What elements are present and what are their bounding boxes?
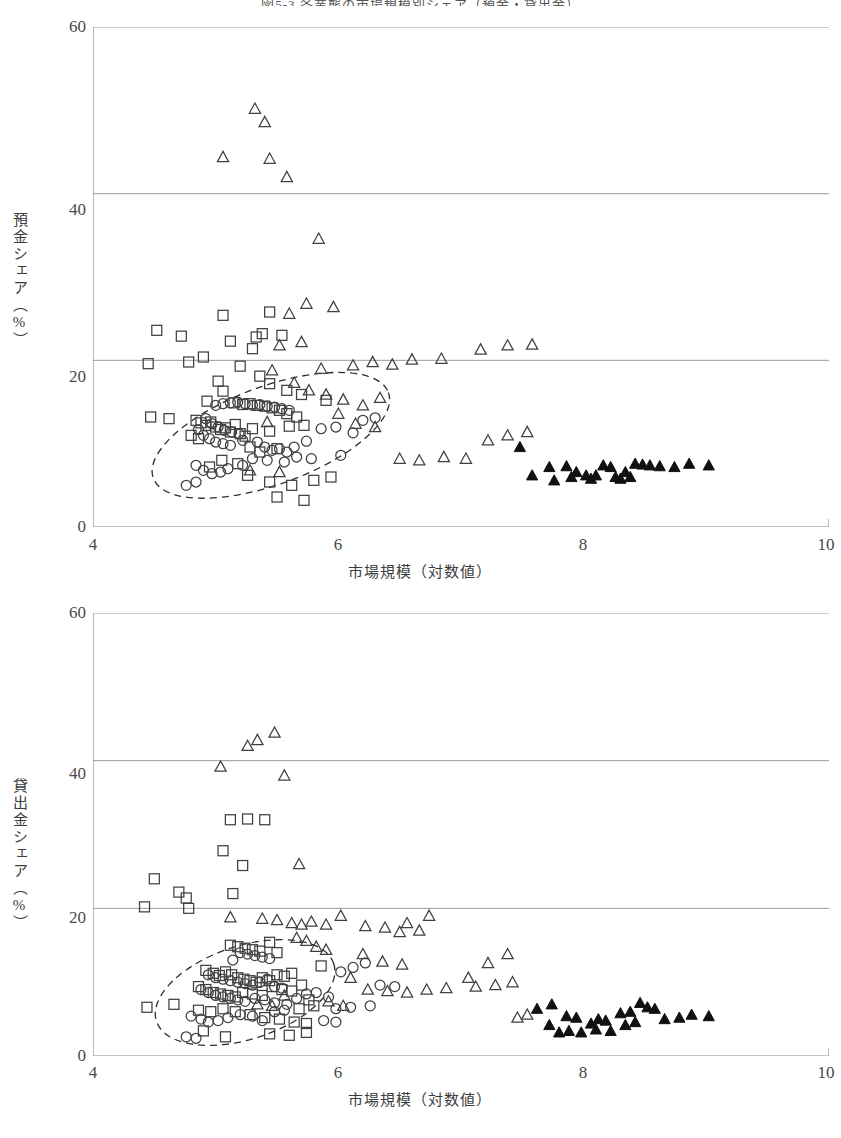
x-tick-10-bottom: 10 <box>811 1064 841 1081</box>
data-point <box>463 972 474 982</box>
data-point <box>401 987 412 997</box>
data-point <box>674 1012 685 1022</box>
data-point <box>205 462 215 472</box>
data-point <box>257 329 267 339</box>
data-point <box>181 893 191 903</box>
data-point <box>252 734 263 744</box>
series-filled-triangle <box>514 441 714 485</box>
data-point <box>228 889 238 899</box>
data-point <box>390 982 400 992</box>
data-point <box>206 1007 216 1017</box>
data-point <box>328 301 339 311</box>
data-point <box>265 937 275 947</box>
data-point <box>311 988 321 998</box>
data-point <box>266 365 277 375</box>
data-point <box>360 920 371 930</box>
data-point <box>279 457 289 467</box>
data-point <box>257 952 267 962</box>
data-point <box>421 984 432 994</box>
data-point <box>514 441 525 451</box>
y-tick-60-top: 60 <box>52 18 86 35</box>
data-point <box>333 408 344 418</box>
data-point <box>360 958 370 968</box>
data-point <box>286 918 297 928</box>
data-point <box>502 430 513 440</box>
data-point <box>338 394 349 404</box>
data-point <box>247 424 257 434</box>
data-point <box>313 233 324 243</box>
data-point <box>654 461 665 471</box>
data-point <box>605 1025 616 1035</box>
data-point <box>320 919 331 929</box>
data-point <box>247 344 257 354</box>
series-open-triangle <box>217 103 537 477</box>
data-point <box>205 434 215 444</box>
data-point <box>331 422 341 432</box>
data-point <box>277 330 287 340</box>
data-point <box>296 336 307 346</box>
data-point <box>289 442 299 452</box>
data-point <box>272 492 282 502</box>
y-axis-label-deposit: 預金シェア（%） <box>2 170 26 390</box>
data-point <box>549 475 560 485</box>
data-point <box>669 461 680 471</box>
data-point <box>265 426 275 436</box>
data-point <box>146 412 156 422</box>
data-point <box>184 357 194 367</box>
y-tick-20-top: 20 <box>52 368 86 385</box>
data-point <box>287 480 297 490</box>
data-point <box>191 477 201 487</box>
data-point <box>255 371 265 381</box>
data-point <box>264 153 275 163</box>
data-point <box>242 740 253 750</box>
data-point <box>235 361 245 371</box>
data-point <box>414 925 425 935</box>
data-point <box>149 874 159 884</box>
data-point <box>531 1003 542 1013</box>
data-point <box>406 354 417 364</box>
data-point <box>684 458 695 468</box>
data-point <box>527 470 538 480</box>
data-point <box>301 935 312 945</box>
y-axis-label-loan: 貸出金シェア（%） <box>2 725 26 985</box>
data-point <box>331 1004 341 1014</box>
data-point <box>561 1011 572 1021</box>
data-point <box>336 967 346 977</box>
data-point <box>436 353 447 363</box>
data-point <box>174 887 184 897</box>
data-point <box>316 961 326 971</box>
data-point <box>482 435 493 445</box>
data-point <box>394 453 405 463</box>
data-point <box>331 1017 341 1027</box>
data-point <box>176 331 186 341</box>
data-point <box>228 955 238 965</box>
scatter-svg-loan <box>93 613 829 1056</box>
data-point <box>284 421 294 431</box>
data-point <box>186 1011 196 1021</box>
plot-area-deposit <box>93 27 829 527</box>
data-point <box>259 116 270 126</box>
data-point <box>490 980 501 990</box>
data-point <box>213 1016 223 1026</box>
data-point <box>522 426 533 436</box>
series-open-square <box>140 814 327 1042</box>
x-axis-label-deposit: 市場規模（対数値） <box>330 560 510 581</box>
figure-page: 図5-3 各業態の市場規模別シェア（預金・貸出金） 預金シェア（%） 60 40… <box>0 0 841 1138</box>
data-point <box>512 1012 523 1022</box>
y-tick-0-bottom: 0 <box>52 1047 86 1064</box>
data-point <box>374 392 385 402</box>
data-point <box>620 1019 631 1029</box>
data-point <box>544 1019 555 1029</box>
data-point <box>362 984 373 994</box>
x-tick-6-top: 6 <box>323 536 353 553</box>
data-point <box>257 913 268 923</box>
data-point <box>502 340 513 350</box>
data-point <box>299 495 309 505</box>
data-point <box>335 910 346 920</box>
data-point <box>218 386 228 396</box>
data-point <box>634 997 645 1007</box>
data-point <box>274 340 285 350</box>
data-point <box>401 918 412 928</box>
data-point <box>262 455 272 465</box>
data-point <box>243 814 253 824</box>
